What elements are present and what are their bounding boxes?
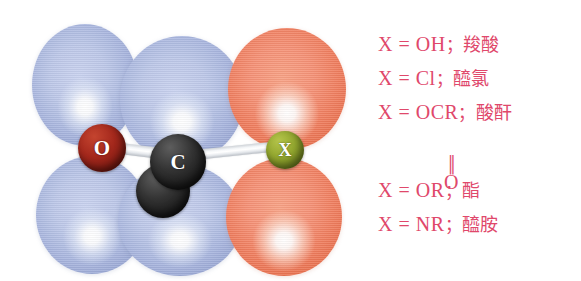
atom-carbon-label: C [170, 152, 185, 173]
legend-separator-acyl-chloride: ； [436, 69, 454, 89]
legend-line-acid-anhydride: X = OCR；酸酐 [378, 98, 512, 124]
legend-name-acyl-chloride: 醯氯 [453, 68, 489, 89]
legend-line-acyl-chloride: X = Cl；醯氯 [378, 64, 489, 90]
figure-root: C O X X = OH；羧酸 X = Cl；醯氯 X = OCR；酸酐 ‖ O… [0, 0, 581, 281]
acyl-derivative-legend: X = OH；羧酸 X = Cl；醯氯 X = OCR；酸酐 ‖ O X = O… [378, 30, 581, 260]
atom-oxygen-label: O [94, 138, 110, 159]
legend-line-ester: X = OR；酯 [378, 176, 480, 202]
legend-formula-carboxylic-acid: X = OH [378, 33, 446, 55]
atom-oxygen: O [78, 124, 126, 172]
atom-carbon: C [150, 134, 206, 190]
legend-formula-amide: X = NR [378, 213, 445, 235]
legend-name-ester: 酯 [462, 180, 480, 201]
legend-name-carboxylic-acid: 羧酸 [463, 34, 499, 55]
legend-separator-carboxylic-acid: ； [446, 35, 464, 55]
legend-formula-ester: X = OR [378, 179, 445, 201]
atom-substituent-label: X [279, 141, 292, 159]
orbital-diagram: C O X [0, 0, 360, 281]
legend-formula-acid-anhydride: X = OCR [378, 101, 458, 123]
p-orbital-lobe-substituent-bottom [226, 158, 342, 276]
atom-substituent-x: X [266, 131, 304, 169]
legend-name-amide: 醯胺 [462, 214, 498, 235]
legend-line-amide: X = NR；醯胺 [378, 210, 498, 236]
legend-separator-ester: ； [445, 181, 463, 201]
legend-formula-acyl-chloride: X = Cl [378, 67, 436, 89]
legend-separator-amide: ； [445, 215, 463, 235]
legend-separator-acid-anhydride: ； [458, 103, 476, 123]
legend-line-carboxylic-acid: X = OH；羧酸 [378, 30, 499, 56]
legend-name-acid-anhydride: 酸酐 [476, 102, 512, 123]
